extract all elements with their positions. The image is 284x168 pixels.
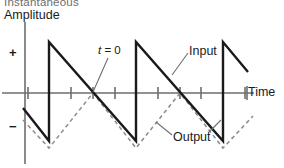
t-zero-leader-line	[93, 58, 108, 92]
waveform-figure: Instantaneous Amplitude Time + − t = 0 I…	[0, 0, 284, 168]
t-zero-annotation: t = 0	[98, 45, 121, 57]
x-axis-label: Time	[248, 86, 275, 99]
output-waveform	[23, 93, 253, 148]
output-leader-line-left	[156, 122, 172, 135]
input-leader-line	[172, 53, 188, 75]
waveform-plot	[0, 0, 284, 168]
input-annotation: Input	[189, 45, 217, 58]
y-axis-positive-label: +	[9, 46, 17, 59]
output-annotation: Output	[173, 131, 211, 144]
y-axis-negative-label: −	[9, 120, 17, 133]
y-axis-title: Amplitude	[4, 9, 60, 22]
t-zero-value: = 0	[101, 44, 121, 56]
